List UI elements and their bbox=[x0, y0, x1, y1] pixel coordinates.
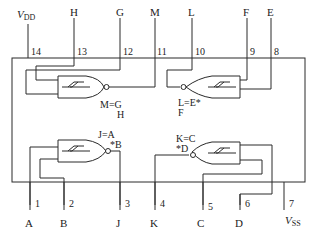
pin-number-1: 1 bbox=[35, 198, 40, 209]
xor-gate-1: M=G H bbox=[26, 58, 155, 120]
pin-number-7: 7 bbox=[289, 198, 294, 209]
xor-gate-2: L=E* F bbox=[167, 58, 271, 118]
signal-label-l: L bbox=[188, 6, 195, 18]
pin-number-3: 3 bbox=[125, 198, 130, 209]
vdd-label: VDD bbox=[17, 8, 36, 22]
pin-number-13: 13 bbox=[77, 46, 87, 57]
signal-label-b: B bbox=[60, 217, 67, 229]
top-pin-leads bbox=[28, 18, 271, 58]
pin-number-4: 4 bbox=[160, 198, 165, 209]
signal-label-e: E bbox=[267, 6, 274, 18]
vss-label: VSS bbox=[285, 214, 301, 228]
gate-4-equation-line2: *D bbox=[176, 143, 188, 154]
gate-2-equation-line2: F bbox=[178, 107, 184, 118]
gate-1-equation-line2: H bbox=[117, 109, 124, 120]
signal-label-h: H bbox=[70, 6, 78, 18]
pin-number-14: 14 bbox=[31, 46, 41, 57]
signal-label-g: G bbox=[116, 6, 124, 18]
signal-label-m: M bbox=[150, 6, 160, 18]
pinout-diagram: VDD H G M L F E 14 13 12 11 10 9 8 M=G H… bbox=[0, 0, 311, 234]
signal-label-c: C bbox=[197, 217, 204, 229]
xor-gate-4: K=C *D bbox=[155, 133, 272, 205]
gate-3-equation-line2: *B bbox=[110, 139, 122, 150]
pin-number-5: 5 bbox=[208, 201, 213, 212]
chip-outline bbox=[12, 58, 305, 182]
pin-number-2: 2 bbox=[69, 198, 74, 209]
pin-number-10: 10 bbox=[195, 46, 205, 57]
signal-label-j: J bbox=[116, 217, 121, 229]
pin-number-9: 9 bbox=[250, 46, 255, 57]
signal-label-k: K bbox=[150, 217, 158, 229]
xor-gate-3: J=A *B bbox=[30, 129, 122, 205]
signal-label-f: F bbox=[243, 6, 249, 18]
pin-number-8: 8 bbox=[274, 46, 279, 57]
pin-number-11: 11 bbox=[157, 46, 167, 57]
pin-number-12: 12 bbox=[123, 46, 133, 57]
pin-number-6: 6 bbox=[245, 198, 250, 209]
signal-label-a: A bbox=[25, 217, 33, 229]
signal-label-d: D bbox=[235, 217, 243, 229]
